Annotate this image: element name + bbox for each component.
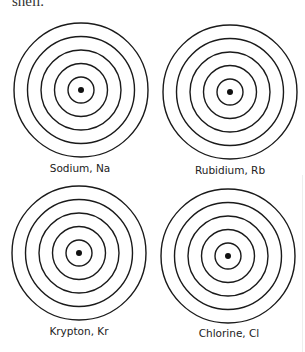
atom-krypton xyxy=(12,186,146,320)
nucleus xyxy=(225,253,231,259)
atom-label-krypton: Krypton, Kr xyxy=(49,325,109,337)
nucleus xyxy=(76,250,82,256)
atom-label-rubidium: Rubidium, Rb xyxy=(195,164,265,176)
atom-sodium xyxy=(14,23,148,157)
nucleus xyxy=(78,87,84,93)
atom-chlorine xyxy=(161,189,295,323)
atom-diagrams: Sodium, Na Rubidium, Rb Krypton, Kr Chlo… xyxy=(0,0,305,352)
nucleus xyxy=(227,89,233,95)
atom-rubidium xyxy=(163,25,297,159)
atom-label-chlorine: Chlorine, Cl xyxy=(199,327,260,339)
atom-label-sodium: Sodium, Na xyxy=(50,162,111,174)
